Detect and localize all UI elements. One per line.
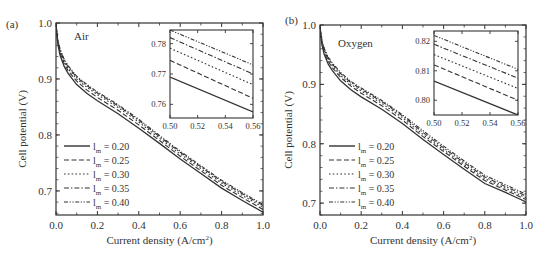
inset-x-tick-label: 0.54 bbox=[483, 118, 499, 128]
legend-label: lm = 0.25 bbox=[93, 155, 129, 169]
legend-value: = 0.35 bbox=[366, 183, 394, 194]
legend-value: = 0.20 bbox=[101, 141, 129, 152]
chart-title: Oxygen bbox=[338, 37, 373, 49]
inset: 0.500.520.540.560.800.810.82 bbox=[415, 31, 525, 128]
y-tick-label: 0.7 bbox=[302, 197, 316, 209]
y-tick-label: 0.9 bbox=[38, 73, 52, 85]
y-tick-label-top: 1.0 bbox=[302, 19, 316, 31]
x-tick-label: 0.8 bbox=[215, 219, 229, 231]
x-tick-label: 0.2 bbox=[91, 219, 105, 231]
x-tick-label: 0.8 bbox=[478, 219, 492, 231]
x-tick-label: 0.2 bbox=[354, 219, 368, 231]
legend-label: lm = 0.30 bbox=[358, 169, 394, 183]
inset-x-tick-label: 0.56 bbox=[246, 121, 261, 131]
legend-label: lm = 0.35 bbox=[358, 183, 394, 197]
legend: lm = 0.20lm = 0.25lm = 0.30lm = 0.35lm =… bbox=[329, 141, 394, 211]
legend-label: lm = 0.30 bbox=[93, 169, 129, 183]
x-tick-label: 0.0 bbox=[49, 219, 63, 231]
inset-x-tick-label: 0.56 bbox=[511, 118, 526, 128]
legend-value: = 0.40 bbox=[101, 197, 129, 208]
x-tick-label: 0.6 bbox=[437, 219, 451, 231]
x-axis-label-text: Current density (A/cm bbox=[370, 234, 469, 247]
inset-x-tick-label: 0.50 bbox=[427, 118, 442, 128]
y-axis-label: Cell potential (V) bbox=[282, 91, 295, 169]
x-axis-label: Current density (A/cm2) bbox=[370, 234, 476, 247]
x-axis-label-close: ) bbox=[472, 234, 476, 247]
inset-y-tick-label: 0.80 bbox=[415, 95, 430, 105]
panel-b: 0.00.20.40.60.81.00.70.80.91.0(b)OxygenC… bbox=[282, 14, 533, 247]
legend-value: = 0.35 bbox=[101, 183, 129, 194]
legend-label: lm = 0.20 bbox=[358, 141, 394, 155]
x-axis-label-close: ) bbox=[209, 234, 213, 247]
chart-title: Air bbox=[74, 30, 89, 42]
y-tick-label: 0.7 bbox=[38, 185, 52, 197]
inset-x-tick-label: 0.52 bbox=[190, 121, 205, 131]
inset-x-tick-label: 0.54 bbox=[218, 121, 234, 131]
x-axis-label: Current density (A/cm2) bbox=[106, 234, 212, 247]
inset-y-tick-label: 0.76 bbox=[151, 99, 166, 109]
legend-label: lm = 0.25 bbox=[358, 155, 394, 169]
legend: lm = 0.20lm = 0.25lm = 0.30lm = 0.35lm =… bbox=[64, 141, 129, 211]
figure: 0.00.20.40.60.81.00.70.80.91.0(a)AirCurr… bbox=[0, 0, 554, 260]
y-tick-label: 0.8 bbox=[38, 129, 52, 141]
legend-value: = 0.20 bbox=[366, 141, 394, 152]
y-tick-label: 0.9 bbox=[302, 78, 316, 90]
y-tick-label-top: 1.0 bbox=[38, 17, 52, 29]
panel-label: (a) bbox=[6, 18, 19, 31]
legend-value: = 0.40 bbox=[366, 197, 394, 208]
legend-label: lm = 0.40 bbox=[93, 197, 129, 211]
x-tick-label: 1.0 bbox=[256, 219, 270, 231]
legend-value: = 0.25 bbox=[366, 155, 394, 166]
y-tick-label: 0.8 bbox=[302, 138, 316, 150]
inset-y-tick-label: 0.77 bbox=[151, 69, 166, 79]
inset-y-tick-label: 0.82 bbox=[415, 36, 430, 46]
legend-value: = 0.25 bbox=[101, 155, 129, 166]
chart-canvas: 0.00.20.40.60.81.00.70.80.91.0(a)AirCurr… bbox=[0, 0, 554, 260]
x-tick-label: 1.0 bbox=[519, 219, 533, 231]
inset-y-tick-label: 0.78 bbox=[151, 39, 166, 49]
inset-y-tick-label: 0.81 bbox=[415, 66, 430, 76]
legend-value: = 0.30 bbox=[101, 169, 129, 180]
x-axis-label-text: Current density (A/cm bbox=[106, 234, 205, 247]
legend-label: lm = 0.40 bbox=[358, 197, 394, 211]
panel-label: (b) bbox=[285, 14, 298, 27]
y-axis-label: Cell potential (V) bbox=[16, 90, 29, 168]
legend-label: lm = 0.20 bbox=[93, 141, 129, 155]
x-tick-label: 0.6 bbox=[173, 219, 187, 231]
panel-a: 0.00.20.40.60.81.00.70.80.91.0(a)AirCurr… bbox=[6, 17, 270, 247]
inset: 0.500.520.540.560.760.770.78 bbox=[151, 30, 260, 131]
inset-x-tick-label: 0.52 bbox=[455, 118, 470, 128]
legend-value: = 0.30 bbox=[366, 169, 394, 180]
x-tick-label: 0.0 bbox=[313, 219, 327, 231]
legend-label: lm = 0.35 bbox=[93, 183, 129, 197]
x-tick-label: 0.4 bbox=[396, 219, 410, 231]
inset-x-tick-label: 0.50 bbox=[163, 121, 178, 131]
x-tick-label: 0.4 bbox=[132, 219, 146, 231]
